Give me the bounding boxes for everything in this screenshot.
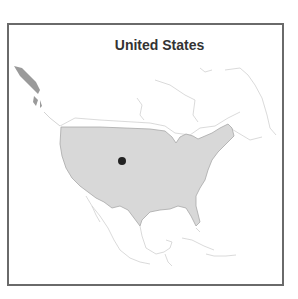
title-container: United States bbox=[7, 23, 284, 286]
map-title: United States bbox=[7, 37, 284, 53]
